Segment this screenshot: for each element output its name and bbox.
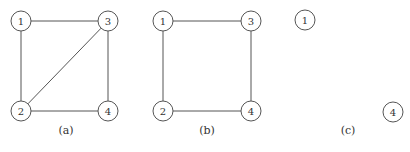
node-c-4: 4 <box>383 102 403 122</box>
node-label: 3 <box>105 16 111 27</box>
graph-figure: 1324132414 (a)(b)(c) <box>0 0 410 152</box>
captions-layer: (a)(b)(c) <box>58 124 355 137</box>
node-c-1: 1 <box>295 10 315 30</box>
nodes-layer: 1324132414 <box>11 10 403 122</box>
node-label: 1 <box>302 15 308 26</box>
node-a-1: 1 <box>11 11 31 31</box>
node-b-2: 2 <box>153 101 173 121</box>
node-b-4: 4 <box>241 101 261 121</box>
caption-b: (b) <box>199 124 215 137</box>
node-label: 2 <box>160 106 166 117</box>
node-a-3: 3 <box>98 11 118 31</box>
caption-c: (c) <box>341 124 356 137</box>
edge-a-2-3 <box>28 28 101 104</box>
node-label: 1 <box>160 16 166 27</box>
edges-layer <box>21 21 251 111</box>
node-label: 1 <box>18 16 24 27</box>
node-b-1: 1 <box>153 11 173 31</box>
node-label: 4 <box>105 106 111 117</box>
node-label: 2 <box>18 106 24 117</box>
node-a-2: 2 <box>11 101 31 121</box>
node-label: 4 <box>248 106 254 117</box>
node-b-3: 3 <box>241 11 261 31</box>
node-a-4: 4 <box>98 101 118 121</box>
caption-a: (a) <box>58 124 73 137</box>
node-label: 3 <box>248 16 254 27</box>
node-label: 4 <box>390 107 396 118</box>
